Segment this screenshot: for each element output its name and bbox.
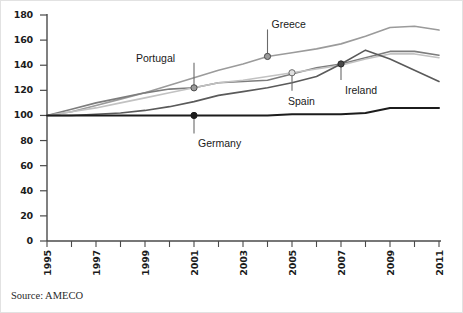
y-tick-label: 120 [7,84,33,95]
series-label-portugal: Portugal [136,52,175,64]
x-tick-label: 2011 [434,250,445,276]
series-line-greece [47,26,439,115]
chart-figure: 020406080100120140160180 199519971999200… [0,0,463,313]
x-tick-label: 2007 [336,250,347,276]
series-label-germany: Germany [198,137,241,149]
x-tick-label: 2003 [238,250,249,276]
source-note: Source: AMECO [11,290,83,301]
x-tick-label: 2009 [385,250,396,276]
x-tick-label: 1999 [140,250,151,276]
series-label-ireland: Ireland [345,84,377,96]
series-label-spain: Spain [288,95,315,107]
y-tick-label: 40 [7,185,33,196]
x-tick-label: 1995 [42,250,53,276]
y-tick-label: 140 [7,59,33,70]
y-tick-label: 100 [7,109,33,120]
callout-marker-greece [264,53,270,59]
callout-marker-portugal [191,85,197,91]
series-label-greece: Greece [272,18,306,30]
x-tick-label: 2005 [287,250,298,276]
y-tick-label: 20 [7,210,33,221]
x-tick-label: 1997 [91,250,102,276]
callout-marker-germany [191,112,197,118]
y-tick-label: 60 [7,160,33,171]
x-tick-label: 2001 [189,250,200,276]
y-tick-label: 0 [7,235,33,246]
y-tick-label: 160 [7,34,33,45]
y-tick-label: 180 [7,9,33,20]
y-tick-label: 80 [7,135,33,146]
callout-marker-spain [289,70,295,76]
callout-marker-ireland [338,61,344,67]
